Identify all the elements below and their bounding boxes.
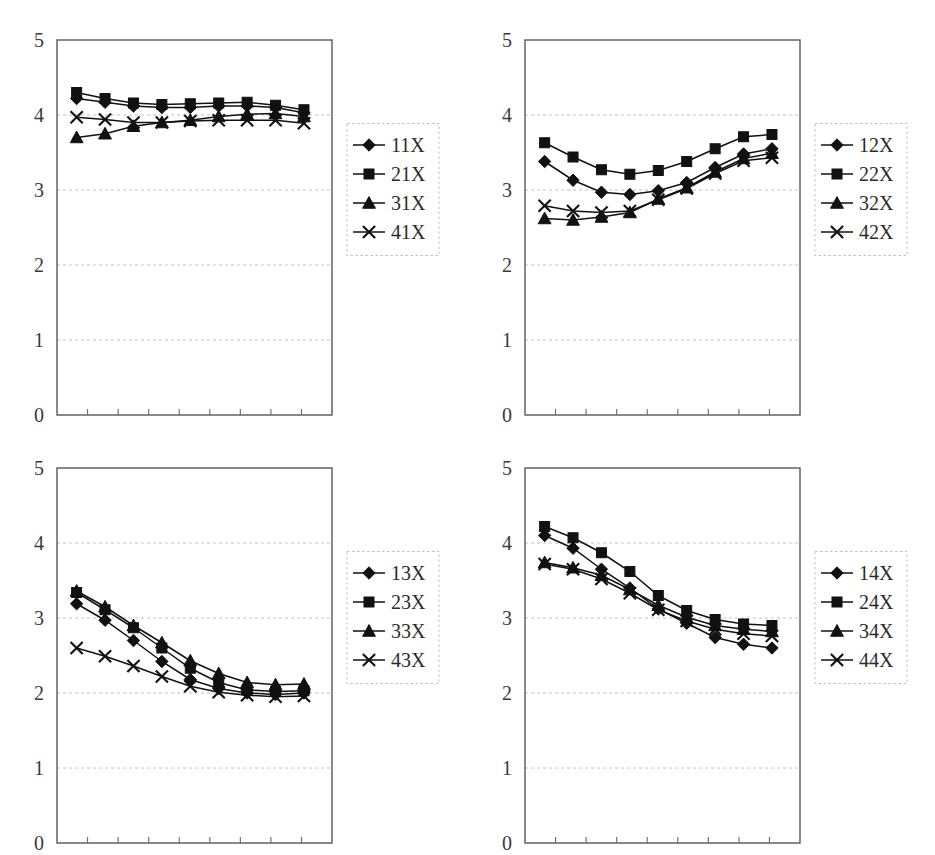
y-tick-label-4: 4 [34,104,44,126]
y-tick-label-2: 2 [502,682,512,704]
series-marker-33X-4 [184,654,197,666]
y-tick-label-1: 1 [502,329,512,351]
series-marker-14X-8 [766,642,778,654]
legend-label-14X: 14X [859,562,894,584]
legend-label-12X: 12X [859,134,894,156]
legend-marker-21X [364,169,374,179]
series-marker-22X-5 [682,157,692,167]
series-marker-22X-6 [710,144,720,154]
y-tick-label-5: 5 [502,457,512,479]
series-marker-21X-1 [100,94,110,104]
plot-frame [57,468,332,843]
y-tick-label-1: 1 [34,757,44,779]
plot-frame [525,468,800,843]
series-marker-21X-3 [157,100,167,110]
legend-label-41X: 41X [391,221,426,243]
series-marker-12X-0 [538,155,550,167]
y-tick-label-2: 2 [34,254,44,276]
legend-label-11X: 11X [391,134,425,156]
series-marker-22X-7 [739,132,749,142]
y-tick-label-0: 0 [502,404,512,426]
legend-label-24X: 24X [859,591,894,613]
y-tick-label-4: 4 [502,104,512,126]
y-tick-label-4: 4 [34,532,44,554]
legend-label-34X: 34X [859,620,894,642]
series-marker-24X-1 [568,533,578,543]
series-marker-12X-1 [567,174,579,186]
series-marker-21X-5 [214,98,224,108]
series-marker-32X-0 [538,212,551,224]
chart-panel-3: 01234513X23X33X43X [0,428,467,855]
legend-label-21X: 21X [391,163,426,185]
series-marker-12X-2 [595,186,607,198]
series-marker-21X-0 [72,88,82,98]
series-marker-24X-0 [540,522,550,532]
chart-svg-2: 01234512X22X32X42X [468,0,935,427]
y-tick-label-3: 3 [34,179,44,201]
y-tick-label-0: 0 [34,404,44,426]
chart-panel-1: 01234511X21X31X41X [0,0,467,427]
plot-frame [525,40,800,415]
series-marker-22X-2 [596,165,606,175]
legend-label-44X: 44X [859,649,894,671]
series-marker-22X-1 [568,152,578,162]
series-marker-13X-0 [70,598,82,610]
legend-label-42X: 42X [859,221,894,243]
y-tick-label-5: 5 [502,29,512,51]
series-marker-24X-2 [596,548,606,558]
legend-label-33X: 33X [391,620,426,642]
legend-label-31X: 31X [391,192,426,214]
series-marker-43X-3 [156,670,168,682]
series-marker-14X-1 [567,542,579,554]
y-tick-label-3: 3 [502,179,512,201]
y-tick-label-2: 2 [34,682,44,704]
y-tick-label-2: 2 [502,254,512,276]
series-marker-33X-3 [155,636,168,648]
y-tick-label-1: 1 [502,757,512,779]
y-tick-label-1: 1 [34,329,44,351]
series-marker-21X-6 [242,97,252,107]
series-marker-21X-4 [185,99,195,109]
figure-canvas: 01234511X21X31X41X 01234512X22X32X42X 01… [0,0,935,855]
series-marker-21X-2 [128,98,138,108]
y-tick-label-0: 0 [34,832,44,854]
series-marker-13X-1 [99,614,111,626]
legend-label-32X: 32X [859,192,894,214]
chart-svg-3: 01234513X23X33X43X [0,428,467,855]
legend-marker-22X [832,169,842,179]
y-tick-label-0: 0 [502,832,512,854]
series-marker-42X-0 [539,200,551,212]
legend-label-23X: 23X [391,591,426,613]
chart-svg-4: 01234514X24X34X44X [468,428,935,855]
series-marker-22X-4 [653,166,663,176]
series-marker-33X-6 [241,676,254,688]
chart-panel-2: 01234512X22X32X42X [468,0,935,427]
legend-label-13X: 13X [391,562,426,584]
series-marker-13X-4 [184,673,196,685]
series-marker-13X-3 [156,655,168,667]
series-marker-13X-2 [127,634,139,646]
series-marker-43X-0 [71,642,83,654]
series-marker-22X-8 [767,130,777,140]
series-marker-14X-7 [737,638,749,650]
y-tick-label-3: 3 [34,607,44,629]
chart-panel-4: 01234514X24X34X44X [468,428,935,855]
series-marker-22X-0 [540,138,550,148]
series-marker-43X-2 [127,660,139,672]
y-tick-label-4: 4 [502,532,512,554]
series-marker-34X-0 [538,556,551,568]
legend-marker-24X [832,597,842,607]
series-marker-33X-5 [212,667,225,679]
legend-label-43X: 43X [391,649,426,671]
legend-label-22X: 22X [859,163,894,185]
series-marker-24X-3 [625,567,635,577]
series-marker-22X-3 [625,169,635,179]
y-tick-label-5: 5 [34,457,44,479]
chart-svg-1: 01234511X21X31X41X [0,0,467,427]
series-marker-43X-1 [99,650,111,662]
y-tick-label-5: 5 [34,29,44,51]
legend-marker-23X [364,597,374,607]
plot-frame [57,40,332,415]
y-tick-label-3: 3 [502,607,512,629]
